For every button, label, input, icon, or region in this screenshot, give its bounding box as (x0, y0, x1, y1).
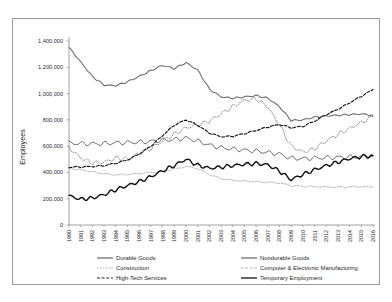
x-tick-label: 1999 (171, 230, 177, 242)
y-tick-label: 1,400,000 (38, 38, 63, 44)
x-tick-label: 2002 (206, 230, 212, 242)
x-tick-label: 1992 (89, 230, 95, 242)
x-tick-label: 2000 (183, 230, 189, 242)
x-tick-label: 1995 (124, 230, 130, 242)
x-tick-label: 2016 (370, 230, 376, 242)
y-tick-label: 1,200,000 (38, 64, 63, 70)
y-tick-label: 1,000,000 (38, 91, 63, 97)
x-tick-label: 2003 (218, 230, 224, 242)
y-tick-label: 0 (60, 222, 63, 228)
employment-line-chart: Employees 0200,000400,000600,000800,0001… (13, 19, 379, 284)
x-tick-label: 1998 (160, 230, 166, 242)
series-lines (69, 48, 373, 201)
x-tick-label: 2013 (335, 230, 341, 242)
y-axis-ticks: 0200,000400,000600,000800,0001,000,0001,… (38, 38, 69, 228)
x-tick-label: 2011 (312, 230, 318, 242)
x-tick-label: 2005 (241, 230, 247, 242)
x-tick-label: 2012 (323, 230, 329, 242)
x-tick-label: 2009 (288, 230, 294, 242)
series-line (69, 166, 373, 187)
legend-item: Nondurable Goods (241, 255, 310, 261)
x-tick-label: 1997 (148, 230, 154, 242)
legend-label: Nondurable Goods (260, 255, 310, 261)
x-tick-label: 1991 (78, 230, 84, 242)
legend-item: Construction (97, 265, 149, 271)
y-tick-label: 600,000 (43, 143, 63, 149)
chart-legend: Durable GoodsNondurable GoodsConstructio… (97, 255, 358, 281)
series-line (69, 97, 373, 165)
y-tick-label: 200,000 (43, 196, 63, 202)
legend-item: Computer & Electronic Manufacturing (241, 265, 358, 271)
y-axis-title: Employees (18, 129, 27, 165)
x-tick-label: 2001 (195, 230, 201, 242)
x-tick-label: 2007 (265, 230, 271, 242)
y-tick-label: 400,000 (43, 169, 63, 175)
legend-label: Computer & Electronic Manufacturing (260, 265, 358, 271)
chart-frame: Employees 0200,000400,000600,000800,0001… (12, 18, 380, 285)
legend-label: Construction (116, 265, 149, 271)
series-line (69, 48, 373, 122)
legend-item: High-Tech Services (97, 275, 167, 281)
x-tick-label: 1990 (66, 230, 72, 242)
x-tick-label: 2006 (253, 230, 259, 242)
legend-label: Durable Goods (116, 255, 156, 261)
legend-item: Temporary Employment (241, 275, 323, 281)
x-tick-label: 2010 (300, 230, 306, 242)
x-tick-label: 1994 (113, 230, 119, 242)
x-tick-label: 2004 (230, 230, 236, 242)
y-tick-label: 800,000 (43, 117, 63, 123)
x-tick-label: 1996 (136, 230, 142, 242)
x-tick-label: 1993 (101, 230, 107, 242)
legend-item: Durable Goods (97, 255, 156, 261)
legend-label: High-Tech Services (116, 275, 167, 281)
x-tick-label: 2014 (347, 230, 353, 242)
y-axis-title-group: Employees (18, 129, 27, 165)
x-axis-ticks: 1990199119921993199419951996199719981999… (66, 225, 376, 242)
x-tick-label: 2015 (358, 230, 364, 242)
series-line (69, 154, 373, 200)
legend-label: Temporary Employment (260, 275, 323, 281)
x-tick-label: 2008 (276, 230, 282, 242)
